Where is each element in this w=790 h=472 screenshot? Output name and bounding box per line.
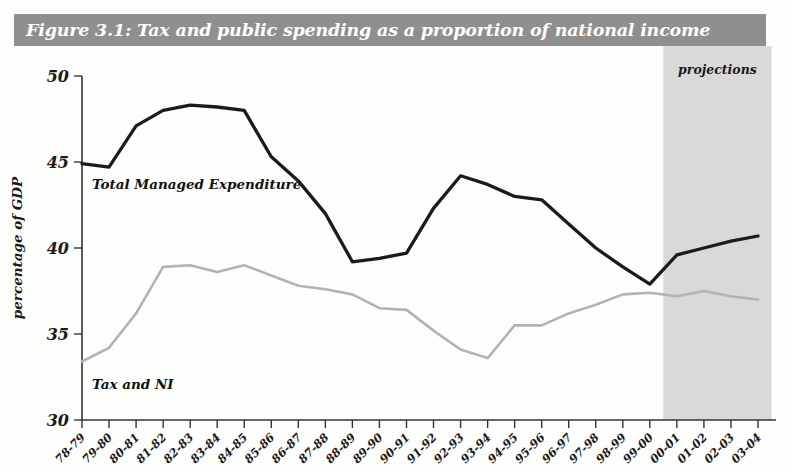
- projection-band-group: projections: [663, 46, 771, 420]
- figure-container: Figure 3.1: Tax and public spending as a…: [0, 0, 790, 472]
- figure-title-band: Figure 3.1: Tax and public spending as a…: [14, 14, 766, 46]
- series-line-total-managed-expenditure: [82, 105, 758, 284]
- y-tick-label: 40: [47, 239, 69, 258]
- series-label-tax-and-ni: Tax and NI: [92, 376, 174, 392]
- y-tick-label: 45: [47, 153, 69, 172]
- y-tick-label: 35: [47, 325, 69, 344]
- chart-labels-group: Total Managed ExpenditureTax and NI: [92, 176, 302, 392]
- projections-shaded-region: [663, 46, 771, 420]
- projections-label: projections: [678, 62, 757, 77]
- y-axis-title: percentage of GDP: [9, 176, 25, 319]
- axes-group: 303540455078-7979-8080-8181-8282-8383-84…: [9, 67, 776, 466]
- series-label-total-managed-expenditure: Total Managed Expenditure: [92, 176, 302, 192]
- series-line-tax-and-ni: [82, 265, 758, 361]
- y-tick-label: 30: [47, 411, 69, 430]
- series-group: [82, 105, 758, 361]
- y-tick-label: 50: [47, 67, 69, 86]
- page-title: Figure 3.1: Tax and public spending as a…: [14, 20, 710, 40]
- line-chart-svg: projections 303540455078-7979-8080-8181-…: [0, 46, 790, 472]
- x-tick-label: 03-04: [728, 430, 764, 466]
- chart-plot-area: projections 303540455078-7979-8080-8181-…: [0, 46, 790, 472]
